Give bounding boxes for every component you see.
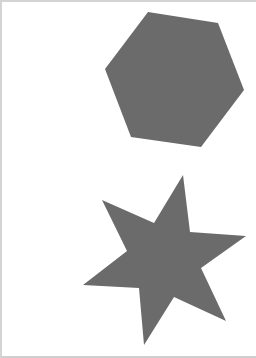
shapes-canvas (0, 0, 256, 358)
star-shape (83, 175, 246, 345)
hexagon-shape (105, 12, 244, 147)
